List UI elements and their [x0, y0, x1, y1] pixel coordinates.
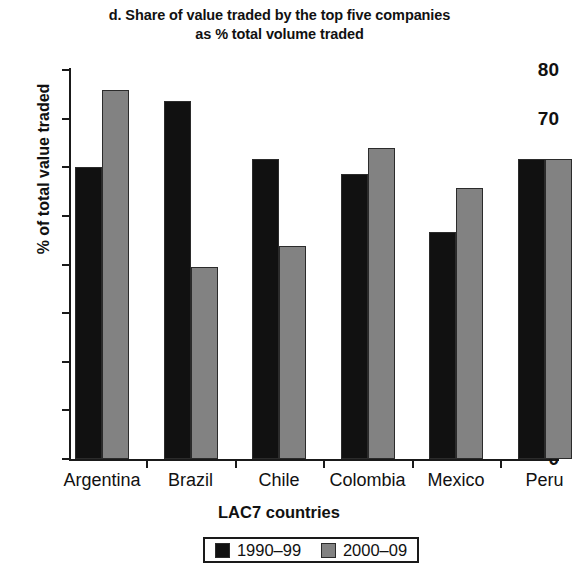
bar: [164, 101, 191, 459]
x-axis-tick: [500, 459, 502, 468]
x-axis-tick: [235, 459, 237, 468]
bar: [279, 246, 306, 459]
bar: [368, 148, 395, 459]
x-axis-category-label: Peru: [485, 470, 576, 491]
chart-legend: 1990–992000–09: [203, 537, 419, 563]
chart-title-line-2: as % total volume traded: [0, 25, 559, 44]
y-axis-title: % of total value traded: [35, 19, 53, 319]
chart-title: d. Share of value traded by the top five…: [0, 6, 559, 44]
bar: [341, 174, 368, 459]
bar: [75, 167, 102, 459]
legend-item[interactable]: 2000–09: [321, 541, 407, 560]
bar: [518, 159, 545, 460]
bar: [102, 90, 129, 459]
legend-item[interactable]: 1990–99: [215, 541, 301, 560]
x-axis-line: [69, 459, 559, 461]
x-axis-tick: [323, 459, 325, 468]
plot-area: [69, 70, 559, 459]
bar: [252, 159, 279, 459]
chart-title-line-1: d. Share of value traded by the top five…: [109, 7, 450, 23]
bar: [191, 267, 218, 459]
x-axis-tick: [412, 459, 414, 468]
x-axis-title: LAC7 countries: [69, 503, 489, 522]
legend-label: 2000–09: [343, 541, 407, 560]
legend-swatch-icon: [215, 543, 230, 558]
bar: [429, 232, 456, 459]
legend-label: 1990–99: [237, 541, 301, 560]
bar: [545, 159, 572, 459]
bar: [456, 188, 483, 459]
x-axis-tick: [146, 459, 148, 468]
legend-swatch-icon: [321, 543, 336, 558]
